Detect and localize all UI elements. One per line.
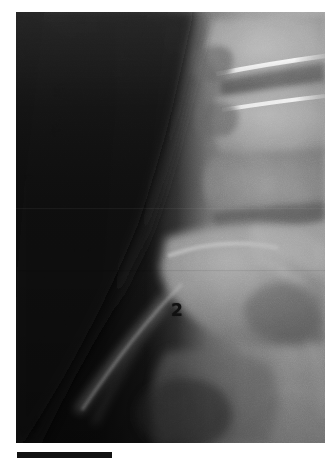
film-grain <box>16 12 325 443</box>
radiograph-image <box>16 12 325 443</box>
scan-band-2 <box>16 270 325 271</box>
scan-band <box>16 208 325 209</box>
radiograph-page: 2 <box>0 0 335 467</box>
radiograph-canvas <box>16 12 325 443</box>
scale-bar <box>17 452 112 458</box>
annotation-marker-2: 2 <box>171 302 183 319</box>
